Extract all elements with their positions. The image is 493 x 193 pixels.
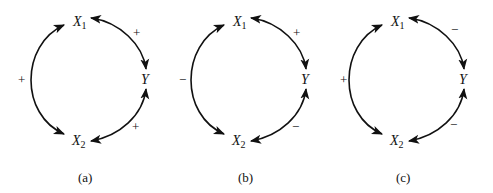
node-x1: X1	[390, 14, 405, 31]
panel-a: X1 Y X2 + + + (a)	[18, 14, 151, 185]
caption-b: (b)	[238, 170, 253, 185]
sign-x2-y: −	[450, 117, 457, 132]
sign-x2-y: +	[132, 119, 139, 134]
node-x2: X2	[71, 133, 86, 150]
sign-x1-x2: −	[179, 72, 186, 87]
causal-diagrams-figure: X1 Y X2 + + + (a) X1 Y X2 − + − (b) X1 Y…	[0, 0, 493, 193]
panel-b: X1 Y X2 − + − (b)	[179, 14, 311, 185]
node-x1: X1	[232, 14, 247, 31]
edge-x1-x2	[349, 25, 382, 134]
node-x2: X2	[231, 133, 246, 150]
sign-x1-x2: +	[340, 72, 347, 87]
sign-x1-y: −	[451, 22, 458, 37]
panel-c: X1 Y X2 + − − (c)	[340, 14, 469, 185]
node-x2: X2	[389, 133, 404, 150]
node-x1: X1	[72, 14, 87, 31]
sign-x1-x2: +	[18, 72, 25, 87]
edge-x1-x2	[191, 25, 224, 134]
node-y: Y	[141, 72, 151, 87]
sign-x1-y: +	[293, 25, 300, 40]
sign-x1-y: +	[133, 25, 140, 40]
caption-a: (a)	[78, 170, 92, 185]
edge-x2-y	[409, 89, 464, 141]
node-y: Y	[459, 72, 469, 87]
edge-x1-x2	[31, 25, 64, 134]
caption-c: (c)	[396, 170, 410, 185]
node-y: Y	[301, 72, 311, 87]
sign-x2-y: −	[292, 119, 299, 134]
